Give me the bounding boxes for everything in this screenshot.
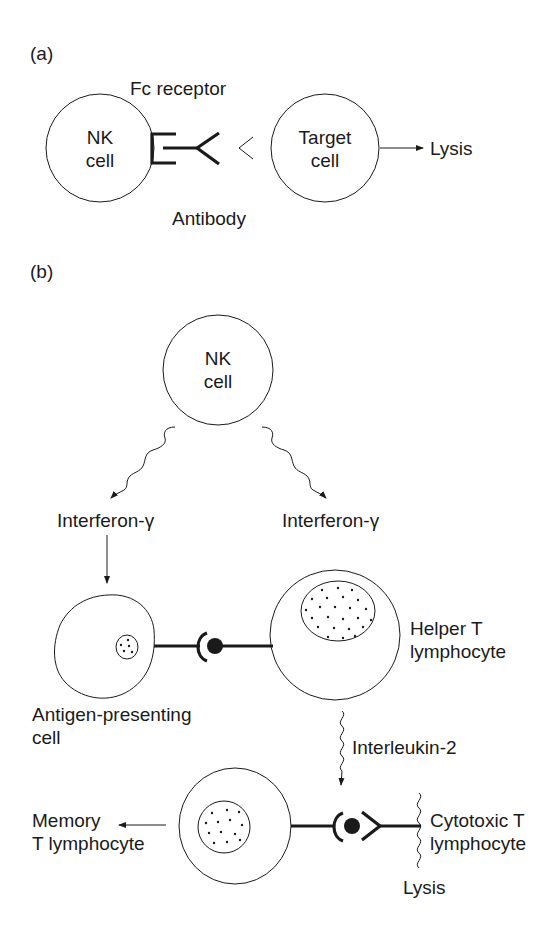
lysis-b-label: Lysis bbox=[403, 876, 446, 899]
helper-t-cell bbox=[270, 570, 400, 700]
ctl-crescent-icon bbox=[334, 813, 343, 841]
cytotoxic-t-line2: lymphocyte bbox=[430, 832, 526, 855]
helper-t-label: Helper T lymphocyte bbox=[410, 617, 506, 663]
antibody-label: Antibody bbox=[172, 207, 246, 230]
memory-t-cell bbox=[179, 768, 291, 884]
tcr-crescent-icon bbox=[198, 633, 207, 661]
lysis-a-label: Lysis bbox=[430, 137, 473, 160]
apc-nucleus bbox=[116, 635, 138, 659]
cytotoxic-t-label: Cytotoxic T lymphocyte bbox=[430, 809, 526, 855]
apc-line2: cell bbox=[32, 726, 192, 749]
memory-t-line1: Memory bbox=[32, 809, 145, 832]
target-cell-line2: cell bbox=[285, 149, 365, 172]
nk-cell-a-line1: NK bbox=[70, 126, 130, 149]
antigen-peptide-dot bbox=[207, 638, 223, 654]
memory-t-line2: T lymphocyte bbox=[32, 832, 145, 855]
apc-nucleus-dots bbox=[120, 639, 133, 653]
nk-cell-b-line2: cell bbox=[188, 370, 248, 393]
interleukin-label: Interleukin-2 bbox=[352, 736, 457, 759]
helper-t-line2: lymphocyte bbox=[410, 640, 506, 663]
cytotoxic-t-membrane bbox=[417, 793, 420, 868]
helper-t-nucleus bbox=[301, 581, 375, 641]
fc-receptor-label: Fc receptor bbox=[130, 77, 226, 100]
antigen-presenting-cell bbox=[55, 595, 155, 698]
helper-t-line1: Helper T bbox=[410, 617, 506, 640]
ctl-antigen-dot bbox=[344, 818, 360, 834]
antibody-icon bbox=[163, 133, 219, 164]
ctl-chevron-icon bbox=[362, 812, 380, 840]
antigen-icon bbox=[239, 137, 253, 159]
wavy-arrow-left bbox=[111, 427, 175, 498]
nk-cell-a-label: NK cell bbox=[70, 126, 130, 172]
memory-t-nucleus-dots bbox=[205, 809, 243, 844]
memory-t-label: Memory T lymphocyte bbox=[32, 809, 145, 855]
nk-cell-b-line1: NK bbox=[188, 347, 248, 370]
cytotoxic-t-line1: Cytotoxic T bbox=[430, 809, 526, 832]
target-cell-label: Target cell bbox=[285, 126, 365, 172]
nk-cell-a-line2: cell bbox=[70, 149, 130, 172]
panel-a-label: (a) bbox=[30, 42, 53, 65]
wavy-arrow-right bbox=[262, 427, 326, 498]
helper-t-nucleus-dots bbox=[305, 587, 372, 639]
nk-cell-b-label: NK cell bbox=[188, 347, 248, 393]
memory-t-nucleus bbox=[198, 801, 250, 853]
interferon-right-label: Interferon-γ bbox=[282, 509, 379, 532]
target-cell-line1: Target bbox=[285, 126, 365, 149]
wavy-arrow-interleukin bbox=[340, 711, 343, 785]
apc-label: Antigen-presenting cell bbox=[32, 703, 192, 749]
panel-b-label: (b) bbox=[30, 260, 53, 283]
interferon-left-label: Interferon-γ bbox=[57, 509, 154, 532]
apc-line1: Antigen-presenting bbox=[32, 703, 192, 726]
